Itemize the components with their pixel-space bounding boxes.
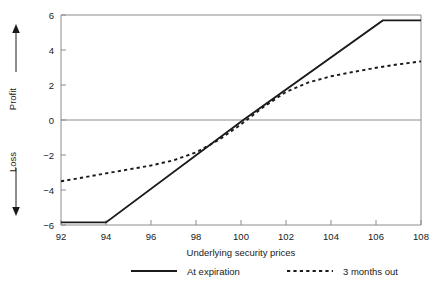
y-tick-label: −6 (43, 220, 54, 231)
y-axis-title-profit: Profit (7, 88, 18, 111)
x-tick-label: 94 (101, 231, 112, 242)
x-tick-labels: 92 94 96 98 100 102 104 106 108 (56, 231, 429, 242)
y-tick-label: 4 (49, 45, 54, 56)
x-axis-title: Underlying security prices (187, 247, 296, 258)
y-axis-ticks (61, 15, 66, 225)
y-tick-label: 0 (49, 115, 54, 126)
y-tick-label: −4 (43, 185, 54, 196)
y-tick-label: −2 (43, 150, 54, 161)
x-tick-label: 102 (278, 231, 294, 242)
x-tick-label: 106 (368, 231, 384, 242)
profit-arrow-icon (12, 24, 20, 72)
chart-legend: At expiration 3 months out (131, 266, 398, 277)
y-tick-label: 2 (49, 80, 54, 91)
x-tick-label: 96 (146, 231, 157, 242)
x-tick-label: 92 (56, 231, 67, 242)
series-at-expiration (61, 20, 421, 222)
y-tick-label: 6 (49, 10, 54, 21)
loss-arrow-icon (12, 168, 20, 216)
y-tick-labels: 6 4 2 0 −2 −4 −6 (43, 10, 54, 231)
legend-label-at-expiration: At expiration (187, 266, 240, 277)
y-axis-title-loss: Loss (7, 152, 18, 172)
x-tick-label: 100 (233, 231, 249, 242)
x-axis-ticks (61, 220, 421, 225)
chart-svg: 6 4 2 0 −2 −4 −6 92 94 96 98 100 (0, 0, 448, 285)
x-tick-label: 98 (191, 231, 202, 242)
x-tick-label: 104 (323, 231, 339, 242)
legend-label-3-months-out: 3 months out (343, 266, 398, 277)
x-tick-label: 108 (413, 231, 429, 242)
chart-figure: 6 4 2 0 −2 −4 −6 92 94 96 98 100 (0, 0, 448, 285)
